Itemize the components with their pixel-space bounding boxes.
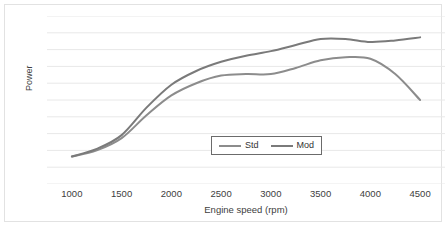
y-axis-title: Power [22,31,36,91]
legend-entry-mod[interactable]: Mod [271,140,315,151]
x-tick-label-1500: 1500 [98,186,146,202]
series-lines [47,16,445,184]
chart-frame: Power 10001500200025003000350040004500 E… [4,4,442,222]
x-tick-label-2500: 2500 [197,186,245,202]
x-tick-label-1000: 1000 [48,186,96,202]
x-tick-label-3500: 3500 [297,186,345,202]
plot-area [47,16,445,184]
power-vs-engine-speed-chart: Power 10001500200025003000350040004500 E… [0,0,448,228]
x-axis-tick-labels: 10001500200025003000350040004500 [47,186,445,202]
legend-label: Mod [297,140,315,151]
x-tick-label-3000: 3000 [247,186,295,202]
x-tick-label-4000: 4000 [346,186,394,202]
x-tick-label-2000: 2000 [147,186,195,202]
legend-line-swatch-mod [271,145,293,147]
x-tick-label-4500: 4500 [396,186,444,202]
legend-label: Std [245,140,259,151]
legend-line-swatch-std [219,145,241,147]
chart-legend[interactable]: StdMod [211,136,322,155]
x-axis-title: Engine speed (rpm) [47,204,445,215]
legend-entry-std[interactable]: Std [219,140,259,151]
